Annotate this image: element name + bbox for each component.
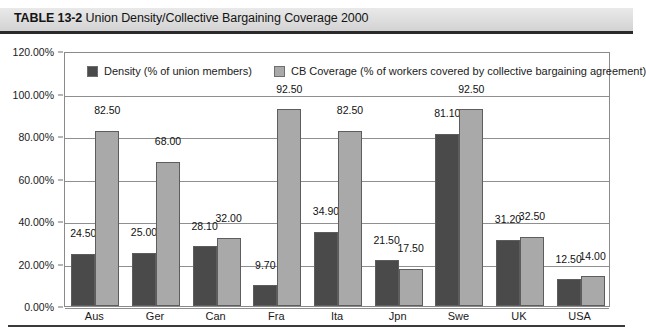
bar-density[interactable]: 9.70 [253,285,277,306]
bar-value-label: 28.10 [192,220,218,233]
y-axis-tick-label: 0.00% [0,301,54,313]
bar-value-label: 12.50 [556,253,582,266]
bar-density[interactable]: 81.10 [435,134,459,306]
bar-cb-coverage[interactable]: 92.50 [459,109,483,306]
bar-value-label: 24.50 [70,228,96,241]
x-axis-tick-label: Jpn [389,310,407,322]
table-header-text: TABLE 13-2 Union Density/Collective Barg… [14,11,368,25]
y-axis-tick-mark [58,264,63,265]
y-axis-tick-label: 80.00% [0,131,54,143]
bar-value-label: 92.50 [458,83,484,96]
bar-value-label: 14.00 [580,250,606,263]
y-axis-tick-label: 100.00% [0,89,54,101]
bar-value-label: 31.20 [495,214,521,227]
bar-group: 31.2032.50 [490,53,551,306]
x-axis-tick-label: UK [511,310,526,322]
y-axis-tick-mark [58,137,63,138]
x-axis-tick-label: Ger [146,310,164,322]
bar-value-label: 17.50 [398,243,424,256]
bar-value-label: 82.50 [94,105,120,118]
y-axis-tick-mark [58,222,63,223]
bar-group: 25.0068.00 [126,53,187,306]
y-axis-tick-mark [58,94,63,95]
bar-density[interactable]: 24.50 [71,254,95,306]
bar-cb-coverage[interactable]: 92.50 [277,109,301,306]
bar-cb-coverage[interactable]: 82.50 [338,131,362,306]
plot-area: Density (% of union members) CB Coverage… [64,52,610,307]
bar-value-label: 92.50 [276,83,302,96]
bar-chart-figure: 0.00%20.00%40.00%60.00%80.00%100.00%120.… [0,40,633,325]
table-number-label: TABLE 13-2 [14,11,82,25]
bar-density[interactable]: 21.50 [375,260,399,306]
x-axis-tick-label: Ita [331,310,343,322]
x-axis-tick-label: USA [568,310,591,322]
y-axis-tick-mark [58,179,63,180]
y-axis-tick-label: 40.00% [0,216,54,228]
bar-value-label: 34.90 [313,206,339,219]
bar-value-label: 9.70 [255,259,275,272]
bar-value-label: 81.10 [434,108,460,121]
y-axis-tick-mark [58,307,63,308]
bar-group: 28.1032.00 [186,53,247,306]
bar-cb-coverage[interactable]: 68.00 [156,162,180,307]
bar-value-label: 82.50 [337,105,363,118]
page-title: Union Density/Collective Bargaining Cove… [86,11,369,25]
bar-density[interactable]: 25.00 [132,253,156,306]
bar-cb-coverage[interactable]: 32.00 [217,238,241,306]
table-header-bar: TABLE 13-2 Union Density/Collective Barg… [0,8,633,34]
bar-value-label: 32.00 [216,212,242,225]
x-axis-tick-label: Aus [85,310,104,322]
bar-cb-coverage[interactable]: 14.00 [581,276,605,306]
y-axis-tick-mark [58,52,63,53]
y-axis-tick-label: 20.00% [0,259,54,271]
bar-group: 34.9082.50 [308,53,369,306]
bar-group: 81.1092.50 [429,53,490,306]
x-axis-tick-label: Can [206,310,226,322]
bar-value-label: 25.00 [131,227,157,240]
bar-group: 21.5017.50 [368,53,429,306]
y-axis: 0.00%20.00%40.00%60.00%80.00%100.00%120.… [0,52,58,307]
bar-group: 12.5014.00 [550,53,611,306]
bars-layer: 24.5082.5025.0068.0028.1032.009.7092.503… [65,53,609,306]
bar-cb-coverage[interactable]: 82.50 [95,131,119,306]
bar-value-label: 32.50 [519,211,545,224]
bar-density[interactable]: 28.10 [193,246,217,306]
bar-value-label: 21.50 [374,234,400,247]
figure-bottom-rule [8,325,625,327]
y-axis-tick-label: 120.00% [0,46,54,58]
bar-group: 9.7092.50 [247,53,308,306]
x-axis: AusGerCanFraItaJpnSweUKUSA [64,309,610,325]
x-axis-tick-label: Swe [448,310,469,322]
bar-density[interactable]: 12.50 [557,279,581,306]
y-axis-tick-label: 60.00% [0,174,54,186]
bar-density[interactable]: 34.90 [314,232,338,306]
bar-value-label: 68.00 [155,136,181,149]
bar-cb-coverage[interactable]: 32.50 [520,237,544,306]
x-axis-tick-label: Fra [268,310,285,322]
bar-density[interactable]: 31.20 [496,240,520,306]
bar-group: 24.5082.50 [65,53,126,306]
bar-cb-coverage[interactable]: 17.50 [399,269,423,306]
